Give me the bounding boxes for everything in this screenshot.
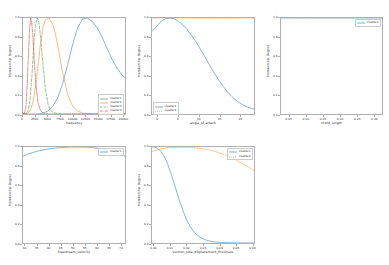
plot-area (280, 17, 383, 115)
y-tick-mark (278, 115, 280, 116)
y-tick-label: 0.8 (140, 35, 149, 39)
x-tick-mark (357, 115, 358, 117)
x-tick-mark (61, 244, 62, 246)
y-tick-label: 0.0 (140, 113, 149, 117)
x-tick-mark (153, 244, 154, 246)
plot-angle-of-attack: 051015200.00.20.40.60.81.0angle_of_attac… (151, 17, 255, 115)
x-tick-mark (157, 115, 158, 117)
y-tick-label: 0.2 (140, 222, 149, 226)
x-tick-mark (374, 115, 375, 117)
legend-label: cluster4 (110, 109, 122, 112)
x-axis-label: frequency (22, 121, 126, 125)
legend-item-cluster2[interactable]: cluster2 (155, 109, 176, 113)
x-axis-label: chord_length (280, 121, 383, 125)
y-tick-mark (20, 115, 22, 116)
x-tick-mark (73, 244, 74, 246)
series-layer (152, 18, 254, 114)
legend-line-swatch (155, 110, 163, 111)
legend[interactable]: cluster1 (98, 148, 125, 157)
x-tick-mark (97, 244, 98, 246)
x-tick-mark (186, 244, 187, 246)
legend-line-swatch (229, 151, 237, 152)
x-tick-mark (85, 244, 86, 246)
y-tick-label: 1.0 (140, 15, 149, 19)
x-tick-mark (323, 115, 324, 117)
y-tick-mark (149, 17, 151, 18)
y-tick-label: 0.0 (140, 242, 149, 246)
y-tick-mark (20, 205, 22, 206)
x-tick-mark (123, 115, 124, 117)
x-tick-mark (236, 244, 237, 246)
series-layer (152, 147, 254, 243)
y-tick-label: 1.0 (140, 144, 149, 148)
x-tick-mark (203, 244, 204, 246)
y-tick-mark (278, 95, 280, 96)
y-tick-label: 0.2 (269, 93, 278, 97)
y-tick-mark (149, 115, 151, 116)
y-tick-label: 0.2 (140, 93, 149, 97)
plot-suction-side-displacement-thickness: 0.000.010.020.030.040.050.060.00.20.40.6… (151, 146, 255, 244)
y-tick-mark (149, 205, 151, 206)
legend[interactable]: cluster1 (355, 19, 382, 28)
y-tick-mark (20, 95, 22, 96)
y-tick-mark (278, 17, 280, 18)
figure-canvas: 025005000750010000125001500017500200000.… (0, 0, 389, 265)
y-tick-mark (20, 17, 22, 18)
y-tick-mark (20, 56, 22, 57)
y-tick-mark (149, 95, 151, 96)
x-tick-mark (220, 115, 221, 117)
legend-line-swatch (100, 98, 108, 99)
x-tick-mark (22, 115, 23, 117)
legend-item-cluster2[interactable]: cluster2 (229, 154, 250, 158)
x-tick-mark (220, 244, 221, 246)
legend-item-cluster1[interactable]: cluster1 (100, 150, 121, 154)
x-axis-label: angle_of_attack (151, 121, 255, 125)
x-tick-mark (60, 115, 61, 117)
y-tick-label: 1.0 (11, 15, 20, 19)
y-tick-mark (149, 56, 151, 57)
legend-item-cluster4[interactable]: cluster4 (100, 109, 121, 113)
y-tick-mark (20, 146, 22, 147)
legend-item-cluster1[interactable]: cluster1 (357, 21, 378, 25)
x-tick-mark (306, 115, 307, 117)
x-axis-label: suction_side_displacement_thickness (151, 250, 255, 254)
y-tick-label: 0.0 (11, 113, 20, 117)
legend[interactable]: cluster1cluster2cluster3cluster4 (98, 94, 125, 115)
legend-label: cluster2 (239, 155, 251, 158)
legend[interactable]: cluster1cluster2 (153, 102, 180, 115)
y-tick-mark (149, 76, 151, 77)
x-tick-mark (73, 115, 74, 117)
y-tick-label: 0.0 (11, 242, 20, 246)
legend-label: cluster1 (110, 150, 122, 153)
y-tick-mark (149, 224, 151, 225)
y-tick-label: 0.8 (140, 164, 149, 168)
legend-line-swatch (100, 102, 108, 103)
y-axis-label: Membership Degree (8, 174, 12, 206)
plot-area (22, 146, 126, 244)
y-tick-label: 0.2 (11, 222, 20, 226)
x-tick-mark (109, 244, 110, 246)
plot-area (151, 17, 255, 115)
y-tick-label: 0.0 (269, 113, 278, 117)
x-tick-mark (49, 244, 50, 246)
plot-area (151, 146, 255, 244)
x-axis-label: freestream_velocity (22, 250, 126, 254)
series-line-cluster1 (152, 147, 254, 243)
plot-freestream-velocity: 3035404550556065700.00.20.40.60.81.0free… (22, 146, 126, 244)
y-tick-label: 1.0 (11, 144, 20, 148)
legend[interactable]: cluster1cluster2 (227, 148, 254, 161)
y-tick-mark (20, 76, 22, 77)
y-tick-label: 1.0 (269, 15, 278, 19)
y-axis-label: Membership Degree (266, 45, 270, 77)
y-tick-label: 0.8 (11, 164, 20, 168)
x-tick-mark (98, 115, 99, 117)
y-tick-mark (20, 166, 22, 167)
legend-line-swatch (155, 106, 163, 107)
x-tick-mark (199, 115, 200, 117)
y-axis-label: Membership Degree (137, 174, 141, 206)
legend-line-swatch (229, 156, 237, 157)
x-tick-mark (47, 115, 48, 117)
x-tick-mark (85, 115, 86, 117)
x-tick-mark (240, 115, 241, 117)
y-tick-mark (149, 166, 151, 167)
